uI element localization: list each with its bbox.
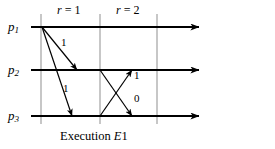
message-value-label-p1-to-p2: 1 bbox=[61, 37, 67, 48]
process-label-p1-subscript: 1 bbox=[15, 25, 20, 35]
round-label-r1-value: 1 bbox=[74, 3, 80, 17]
process-timelines bbox=[31, 27, 199, 116]
process-label-p2-subscript: 2 bbox=[15, 68, 20, 78]
message-arrows-round-2 bbox=[100, 70, 132, 116]
process-label-p2: p2 bbox=[8, 63, 19, 78]
round-label-r2-eq: = bbox=[121, 3, 134, 17]
round-label-r2-value: 2 bbox=[133, 3, 139, 17]
execution-diagram-figure: p1 p2 p3 r = 1 r = 2 1 1 1 0 Execution E… bbox=[0, 0, 275, 149]
message-arrows-round-1 bbox=[42, 27, 77, 116]
caption-execution-index: 1 bbox=[121, 129, 127, 143]
message-value-label-p1-to-p3: 1 bbox=[63, 83, 69, 94]
process-label-p3: p3 bbox=[8, 109, 19, 124]
figure-caption: Execution E1 bbox=[60, 130, 128, 143]
message-arrow-p1-to-p3 bbox=[42, 27, 72, 116]
message-value-label-p3-to-p2: 1 bbox=[134, 70, 140, 81]
round-label-r1: r = 1 bbox=[57, 4, 80, 16]
round-label-r2: r = 2 bbox=[116, 4, 139, 16]
message-arrow-p1-to-p2 bbox=[42, 27, 77, 70]
message-value-label-p2-to-p3: 0 bbox=[134, 93, 140, 104]
process-label-p3-subscript: 3 bbox=[15, 114, 20, 124]
round-label-r1-eq: = bbox=[62, 3, 75, 17]
process-label-p1: p1 bbox=[8, 20, 19, 35]
caption-prefix: Execution bbox=[60, 129, 114, 143]
